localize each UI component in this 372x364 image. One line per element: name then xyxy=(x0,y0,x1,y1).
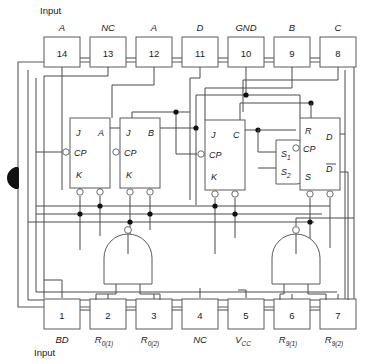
pin-10-label: GND xyxy=(235,22,256,33)
pin-12-label: A xyxy=(150,22,157,33)
ff-c-k-label: K xyxy=(211,172,218,182)
ff-a-clock-bubble xyxy=(63,149,69,155)
pin-3[interactable]: 3 R0(2) xyxy=(136,299,182,348)
ff-b-out-bubble-2 xyxy=(147,189,153,195)
pin-2[interactable]: 2 R0(1) xyxy=(90,299,136,348)
pin-11-label: D xyxy=(197,22,204,33)
ff-a[interactable]: J A CP K xyxy=(36,112,190,250)
top-caption: Input xyxy=(40,5,61,16)
pin-10[interactable]: 10 GND xyxy=(228,22,274,67)
pin-13[interactable]: 13 NC xyxy=(90,22,136,67)
ff-d-clock-bubble xyxy=(293,145,299,151)
pin-8[interactable]: 8 C xyxy=(320,22,356,67)
top-pin-row: 14 A 13 NC 12 A 11 D xyxy=(44,22,356,67)
ff-a-out-bubble-2 xyxy=(97,189,103,195)
ff-d-out-label: D xyxy=(326,132,333,142)
ff-b[interactable]: J B CP K xyxy=(113,118,199,244)
pin-13-label: NC xyxy=(101,22,115,33)
ff-a-out-label: A xyxy=(97,128,104,138)
reset-9-nand-gate[interactable] xyxy=(272,218,354,300)
pin-4-label: NC xyxy=(193,334,207,345)
pin-6-label: R9(1) xyxy=(279,334,297,348)
pin-1[interactable]: 1 BD xyxy=(44,299,90,345)
reset-0-nand-gate[interactable] xyxy=(96,227,160,300)
package-notch-marker xyxy=(7,167,19,189)
ic-logic-diagram: 14 A 13 NC 12 A 11 D xyxy=(0,0,372,364)
ff-c-j-label: J xyxy=(210,130,216,140)
pin-8-label: C xyxy=(335,22,342,33)
bottom-pin-row: 1 BD 2 R0(1) 3 R0(2) xyxy=(44,299,356,348)
pin-5-number: 5 xyxy=(243,310,248,321)
ff-d-out-bubble-1 xyxy=(307,191,313,197)
ff-d-s-label: S xyxy=(305,172,311,182)
pin-6-number: 6 xyxy=(289,310,294,321)
ff-c-out-label: C xyxy=(233,130,240,140)
figure-canvas: 14 A 13 NC 12 A 11 D xyxy=(0,0,372,364)
pin-1-number: 1 xyxy=(59,310,64,321)
ff-a-k-label: K xyxy=(76,170,83,180)
ff-d-cp-label: CP xyxy=(303,144,316,154)
ff-b-k-label: K xyxy=(126,170,133,180)
ff-d-r-label: R xyxy=(305,126,312,136)
pin-5-label: VCC xyxy=(235,334,251,347)
ff-c-out-bubble-1 xyxy=(212,191,218,197)
ff-b-out-bubble-1 xyxy=(127,189,133,195)
pin-3-number: 3 xyxy=(151,310,156,321)
bottom-caption: Input xyxy=(34,347,55,358)
pin-11[interactable]: 11 D xyxy=(182,22,228,67)
ff-d-out-bubble-2 xyxy=(327,191,333,197)
ff-c-clock-bubble xyxy=(198,151,204,157)
pin-5[interactable]: 5 VCC xyxy=(228,299,274,347)
pin-7-number: 7 xyxy=(335,310,340,321)
pin-9-label: B xyxy=(289,22,296,33)
ff-b-j-label: J xyxy=(125,128,131,138)
pin-12[interactable]: 12 A xyxy=(136,22,182,67)
reset-9-nand-output-bubble xyxy=(293,227,300,234)
pin-6[interactable]: 6 R9(1) xyxy=(274,299,320,348)
pin-14-number: 14 xyxy=(57,48,68,59)
pin-11-number: 11 xyxy=(195,48,205,59)
pin-4-number: 4 xyxy=(197,310,202,321)
ff-c-out-bubble-2 xyxy=(232,191,238,197)
ff-a-out-bubble-1 xyxy=(77,189,83,195)
pin-14[interactable]: 14 A xyxy=(44,22,90,67)
pin-14-label: A xyxy=(58,22,65,33)
ff-b-clock-bubble xyxy=(113,149,119,155)
pin-9[interactable]: 9 B xyxy=(274,22,320,67)
pin-2-label: R0(1) xyxy=(95,334,113,348)
pin-2-number: 2 xyxy=(105,310,110,321)
ff-c-cp-label: CP xyxy=(209,150,222,160)
ff-b-cp-label: CP xyxy=(124,148,137,158)
ff-d-out2-label: D xyxy=(326,164,333,174)
pin-7-label: R9(2) xyxy=(325,334,343,348)
reset-0-nand-output-bubble xyxy=(125,227,132,234)
ff-a-cp-label: CP xyxy=(74,148,87,158)
ff-b-out-label: B xyxy=(148,128,154,138)
pin-9-number: 9 xyxy=(289,48,294,59)
pin-10-number: 10 xyxy=(241,48,252,59)
pin-13-number: 13 xyxy=(103,48,114,59)
pin-12-number: 12 xyxy=(149,48,160,59)
pin-8-number: 8 xyxy=(335,48,340,59)
pin-1-label: BD xyxy=(55,334,68,345)
feedback-bus-lines xyxy=(28,203,330,224)
pin-7[interactable]: 7 R9(2) xyxy=(320,299,356,348)
ff-a-j-label: J xyxy=(75,128,81,138)
pin-4[interactable]: 4 NC xyxy=(182,299,228,345)
pin-3-label: R0(2) xyxy=(141,334,159,348)
